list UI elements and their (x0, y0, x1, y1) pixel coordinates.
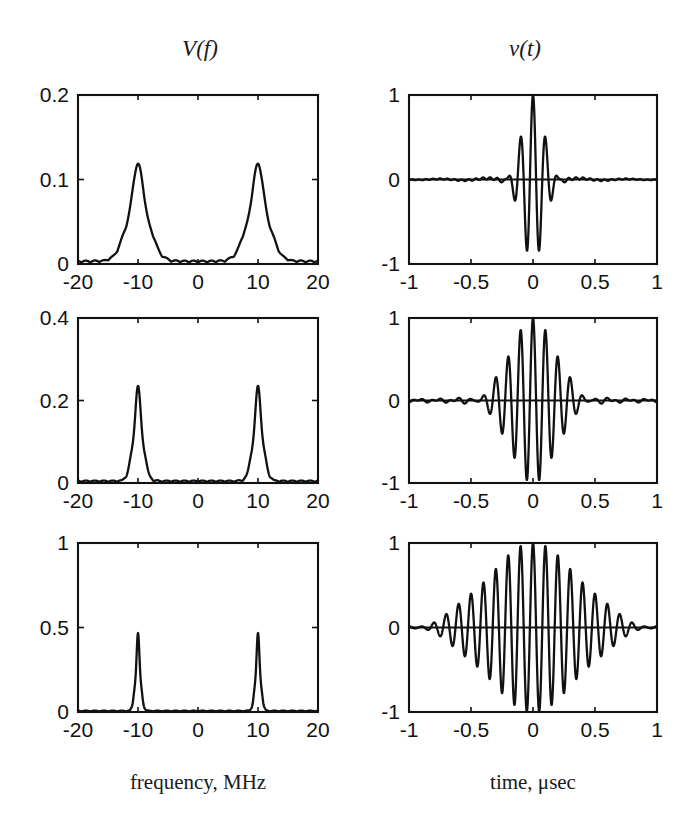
x-tick-label: 0.5 (580, 718, 609, 741)
panel-spectrum-row-3: -20-100102000.51 (40, 531, 330, 741)
x-tick-label: 20 (306, 270, 329, 293)
y-tick-label: -1 (381, 471, 400, 494)
x-tick-label: -1 (400, 718, 419, 741)
x-tick-label: 0 (527, 718, 539, 741)
y-tick-label: 1 (388, 306, 400, 329)
column-title-waveform: v(t) (450, 36, 600, 62)
y-tick-label: 0.4 (40, 306, 70, 329)
y-tick-label: 0 (388, 168, 400, 191)
x-tick-label: 0 (192, 489, 204, 512)
x-tick-label: -0.5 (453, 270, 489, 293)
x-tick-label: 0 (192, 718, 204, 741)
x-tick-label: 0.5 (580, 489, 609, 512)
y-tick-label: 0 (57, 471, 69, 494)
data-curve (78, 164, 318, 263)
y-tick-label: 0 (388, 389, 400, 412)
y-tick-label: 0.1 (40, 168, 69, 191)
data-curve (78, 386, 318, 482)
y-tick-label: 1 (57, 531, 69, 554)
data-curve (409, 318, 657, 480)
data-curve (409, 95, 657, 251)
y-tick-label: 0 (57, 252, 69, 275)
x-tick-label: 1 (651, 489, 663, 512)
x-tick-label: 20 (306, 489, 329, 512)
y-tick-label: 0.2 (40, 83, 69, 106)
x-tick-label: 1 (651, 718, 663, 741)
y-tick-label: -1 (381, 252, 400, 275)
x-tick-label: 20 (306, 718, 329, 741)
panel-waveform-row-1: -1-0.500.51-101 (381, 83, 663, 293)
y-tick-label: 0 (388, 616, 400, 639)
x-tick-label: 0 (192, 270, 204, 293)
data-curve (78, 633, 318, 711)
x-tick-label: -10 (123, 270, 153, 293)
panel-waveform-row-2: -1-0.500.51-101 (381, 306, 663, 512)
y-tick-label: -1 (381, 700, 400, 723)
y-tick-label: 0.5 (40, 616, 69, 639)
x-axis-caption-frequency: frequency, MHz (78, 770, 318, 795)
y-tick-label: 0.2 (40, 389, 69, 412)
plot-frame (78, 95, 318, 264)
x-tick-label: 0.5 (580, 270, 609, 293)
x-tick-label: -0.5 (453, 489, 489, 512)
panel-spectrum-row-2: -20-100102000.20.4 (40, 306, 330, 512)
x-tick-label: -1 (400, 270, 419, 293)
x-tick-label: 0 (527, 270, 539, 293)
x-axis-caption-time: time, μsec (409, 770, 657, 795)
x-tick-label: -10 (123, 718, 153, 741)
x-tick-label: 10 (246, 718, 269, 741)
figure-canvas: -20-100102000.10.2-1-0.500.51-101-20-100… (0, 0, 684, 835)
plot-frame (78, 543, 318, 712)
x-tick-label: -10 (123, 489, 153, 512)
panel-spectrum-row-1: -20-100102000.10.2 (40, 83, 330, 293)
panel-waveform-row-3: -1-0.500.51-101 (381, 531, 663, 741)
x-tick-label: 0 (527, 489, 539, 512)
x-tick-label: -1 (400, 489, 419, 512)
x-tick-label: 10 (246, 489, 269, 512)
y-tick-label: 1 (388, 83, 400, 106)
y-tick-label: 1 (388, 531, 400, 554)
x-tick-label: -0.5 (453, 718, 489, 741)
column-title-spectrum: V(f) (120, 36, 280, 62)
y-tick-label: 0 (57, 700, 69, 723)
plot-frame (78, 318, 318, 483)
x-tick-label: 1 (651, 270, 663, 293)
x-tick-label: 10 (246, 270, 269, 293)
